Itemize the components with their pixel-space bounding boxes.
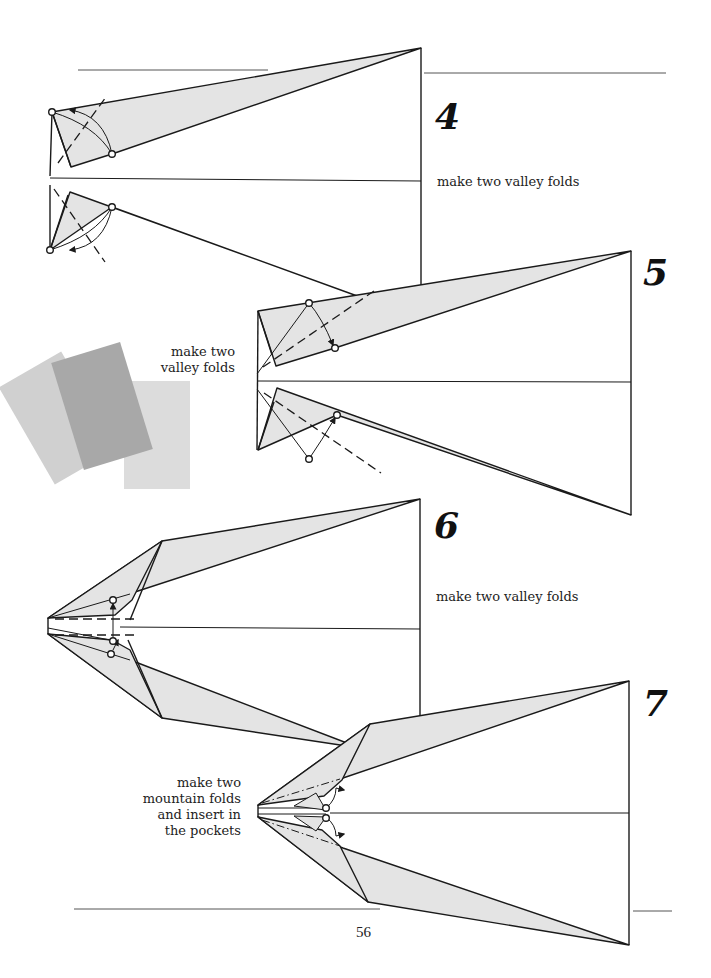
step-number-7: 7	[643, 685, 668, 721]
step-7-caption-line-3: and insert in	[120, 807, 241, 823]
page-number: 56	[356, 924, 371, 941]
step-7-diagram	[258, 681, 629, 945]
fold-point-icon	[109, 204, 116, 211]
step-4-diagram	[47, 48, 421, 297]
fold-point-icon	[323, 805, 330, 812]
top-rules	[78, 70, 666, 73]
step-5-caption-line-1: make two	[150, 344, 235, 360]
step-5-caption: make two valley folds	[150, 344, 235, 376]
step-7-caption-line-4: the pockets	[120, 823, 241, 839]
step-6-caption: make two valley folds	[436, 589, 578, 605]
fold-point-icon	[109, 151, 116, 158]
fold-point-icon	[306, 300, 313, 307]
step-4-caption: make two valley folds	[437, 174, 579, 190]
step-6-diagram	[48, 499, 420, 748]
fold-point-icon	[323, 815, 330, 822]
fold-point-icon	[332, 345, 339, 352]
step-5-caption-line-2: valley folds	[150, 360, 235, 376]
step-7-caption-line-1: make two	[120, 775, 241, 791]
fold-point-icon	[110, 597, 117, 604]
step-7-caption-line-2: mountain folds	[120, 791, 241, 807]
bottom-rules	[74, 909, 672, 911]
fold-point-icon	[108, 651, 115, 658]
step-number-4: 4	[435, 98, 460, 134]
step-number-6: 6	[434, 507, 459, 543]
fold-point-icon	[47, 247, 54, 254]
fold-point-icon	[306, 456, 313, 463]
step-7-caption: make two mountain folds and insert in th…	[120, 775, 241, 839]
fold-point-icon	[49, 109, 56, 116]
fold-point-icon	[334, 412, 341, 419]
fold-diagrams	[0, 0, 711, 978]
origami-instruction-page: 4 5 6 7 make two valley folds make two v…	[0, 0, 711, 978]
step-5-diagram	[257, 251, 631, 515]
step-number-5: 5	[643, 254, 668, 290]
fold-point-icon	[110, 638, 117, 645]
